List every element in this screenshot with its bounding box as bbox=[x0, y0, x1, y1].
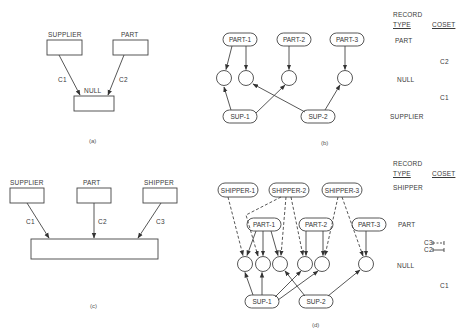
coset-header-d: COSET bbox=[432, 170, 455, 177]
part-3-label-d: PART-3 bbox=[358, 221, 381, 228]
part-2-label-b: PART-2 bbox=[283, 36, 306, 43]
c3-dashed-sample bbox=[433, 241, 444, 245]
part-3-label-b: PART-3 bbox=[336, 36, 359, 43]
part-box-a bbox=[113, 40, 148, 55]
null-node-d5 bbox=[315, 257, 330, 272]
null-node-b4 bbox=[338, 71, 353, 86]
sup-2-label-d: SUP-2 bbox=[306, 298, 326, 305]
part-1-label-d: PART-1 bbox=[253, 221, 276, 228]
part-1-label-b: PART-1 bbox=[229, 36, 252, 43]
null-node-d3 bbox=[273, 257, 288, 272]
null-node-d1 bbox=[238, 257, 253, 272]
part-label-a: PART bbox=[121, 31, 139, 38]
legend-part-d: PART bbox=[398, 221, 416, 228]
shipper-3-label-d: SHIPPER-3 bbox=[325, 187, 360, 194]
legend-null-d: NULL bbox=[397, 262, 414, 269]
shipper-box-c bbox=[143, 188, 177, 203]
c2-solid-sample bbox=[433, 248, 444, 252]
shipper-1-label-d: SHIPPER-1 bbox=[221, 187, 256, 194]
caption-a: (a) bbox=[89, 138, 96, 144]
supplier-label-c: SUPPLIER bbox=[10, 179, 44, 186]
record-header-b: RECORD bbox=[393, 11, 422, 18]
record-header-d: RECORD bbox=[393, 160, 422, 167]
diagram-canvas: PART-1 PART-2 PART-3 SUP-1 SUP-2 SHIPPER… bbox=[0, 0, 468, 335]
sup-2-label-b: SUP-2 bbox=[308, 113, 328, 120]
legend-c2-b: C2 bbox=[440, 58, 449, 65]
type-header-b: TYPE bbox=[393, 21, 411, 28]
legend-c3-d: C3 bbox=[424, 239, 433, 246]
part-box-c bbox=[77, 188, 111, 203]
supplier-label-a: SUPPLIER bbox=[48, 31, 82, 38]
sup-1-label-d: SUP-1 bbox=[252, 298, 272, 305]
c1-label-a: C1 bbox=[58, 76, 67, 83]
c2-label-c: C2 bbox=[98, 218, 107, 225]
null-node-d4 bbox=[298, 257, 313, 272]
caption-c: (c) bbox=[90, 303, 97, 309]
c3-label-c: C3 bbox=[156, 218, 165, 225]
caption-d: (d) bbox=[312, 322, 319, 328]
type-header-d: TYPE bbox=[393, 170, 411, 177]
legend-c2-d: C2 bbox=[424, 246, 433, 253]
null-node-b2 bbox=[239, 71, 254, 86]
c1-label-c: C1 bbox=[26, 218, 35, 225]
null-node-d2 bbox=[256, 257, 271, 272]
part-label-c: PART bbox=[83, 179, 101, 186]
legend-c1-b: C1 bbox=[440, 94, 449, 101]
shipper-label-c: SHIPPER bbox=[144, 179, 174, 186]
supplier-box-c bbox=[10, 188, 44, 203]
shipper-2-label-d: SHIPPER-2 bbox=[272, 187, 307, 194]
caption-b: (b) bbox=[321, 140, 328, 146]
supplier-box-a bbox=[47, 40, 82, 55]
legend-part-b: PART bbox=[395, 37, 413, 44]
legend-c1-d: C1 bbox=[440, 282, 449, 289]
legend-null-b: NULL bbox=[397, 76, 414, 83]
null-box-c bbox=[31, 239, 158, 259]
legend-shipper-d: SHIPPER bbox=[393, 184, 423, 191]
part-2-label-d: PART-2 bbox=[305, 221, 328, 228]
null-label-a: NULL bbox=[84, 87, 101, 94]
null-box-a bbox=[74, 96, 114, 111]
legend-supplier-b: SUPPLIER bbox=[390, 113, 424, 120]
null-node-b3 bbox=[282, 71, 297, 86]
sup-1-label-b: SUP-1 bbox=[230, 113, 250, 120]
null-node-b1 bbox=[217, 71, 232, 86]
null-node-d6 bbox=[359, 257, 374, 272]
c2-label-a: C2 bbox=[119, 76, 128, 83]
coset-header-b: COSET bbox=[432, 21, 455, 28]
